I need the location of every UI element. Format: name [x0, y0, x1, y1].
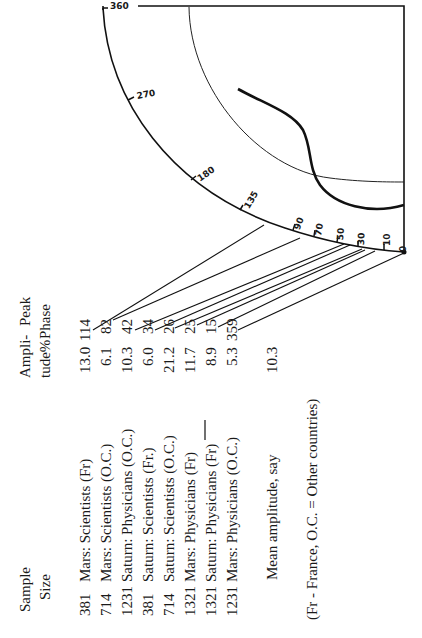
row-4-group: Saturn: Scientists (Fr.) [141, 447, 156, 582]
dial-label-30: 30 [357, 232, 366, 245]
footnote: (Fr - France, O.C. = Other countries) [305, 399, 320, 620]
row-8-group: Mars: Physicians (O.C.) [225, 437, 240, 582]
row-3-phase: 42 [120, 319, 135, 334]
row-2-phase: 82 [99, 319, 114, 334]
row-2-amplitude: 6.1 [99, 347, 114, 366]
mean-amplitude-value: 10.3 [265, 347, 280, 373]
header-amplitude-1: Ampli- [18, 335, 33, 378]
header-size: Size [38, 574, 53, 600]
row-7-amplitude: 8.9 [204, 347, 219, 366]
row-3-size: 1231 [120, 586, 135, 616]
row-3-amplitude: 10.3 [120, 347, 135, 373]
header-peak: Peak [18, 297, 33, 326]
row-5-group: Saturn: Scientists (O.C.) [162, 435, 177, 582]
row-1-amplitude: 13.0 [78, 347, 93, 373]
row-1-size: 381 [78, 594, 93, 617]
row-1-phase: 114 [78, 319, 93, 341]
header-sample: Sample [18, 567, 33, 612]
row-7-size: 1321 [204, 586, 219, 616]
row-6-amplitude: 11.7 [183, 347, 198, 373]
header-phase: Phase [38, 304, 53, 339]
row-5-size: 714 [162, 594, 177, 617]
dial-label-50: 50 [336, 228, 346, 241]
header-amplitude-2: tude% [38, 340, 53, 378]
row-2-group: Mars: Scientists (O.C.) [99, 444, 114, 582]
row-7-group: Saturn: Physicians (Fr) [204, 444, 219, 582]
row-6-phase: 25 [183, 319, 198, 334]
row-8-amplitude: 5.3 [225, 347, 240, 366]
row-2-size: 714 [99, 594, 114, 617]
row-7-phase: 15 [204, 319, 219, 334]
dial-label-0: 0 [399, 246, 408, 252]
row-6-size: 1321 [183, 586, 198, 616]
phase-dial-figure: 360 270 180 135 90 70 50 30 10 0 Sample … [0, 0, 422, 638]
row-5-phase: 26 [162, 319, 177, 334]
row-6-group: Mars: Physicians (Fr) [183, 452, 198, 582]
row-4-size: 381 [141, 594, 156, 617]
row-3-group: Saturn: Physicians (O.C.) [120, 429, 135, 582]
row-8-size: 1231 [225, 586, 240, 616]
row-5-amplitude: 21.2 [162, 347, 177, 373]
dial-label-10: 10 [383, 233, 392, 246]
dial-label-360: 360 [110, 2, 129, 11]
row-8-phase: 359 [225, 319, 240, 342]
row-4-amplitude: 6.0 [141, 347, 156, 366]
row-4-phase: 34 [141, 319, 156, 334]
mean-amplitude-label: Mean amplitude, say [265, 455, 280, 580]
row-1-group: Mars: Scientists (Fr) [78, 459, 93, 582]
